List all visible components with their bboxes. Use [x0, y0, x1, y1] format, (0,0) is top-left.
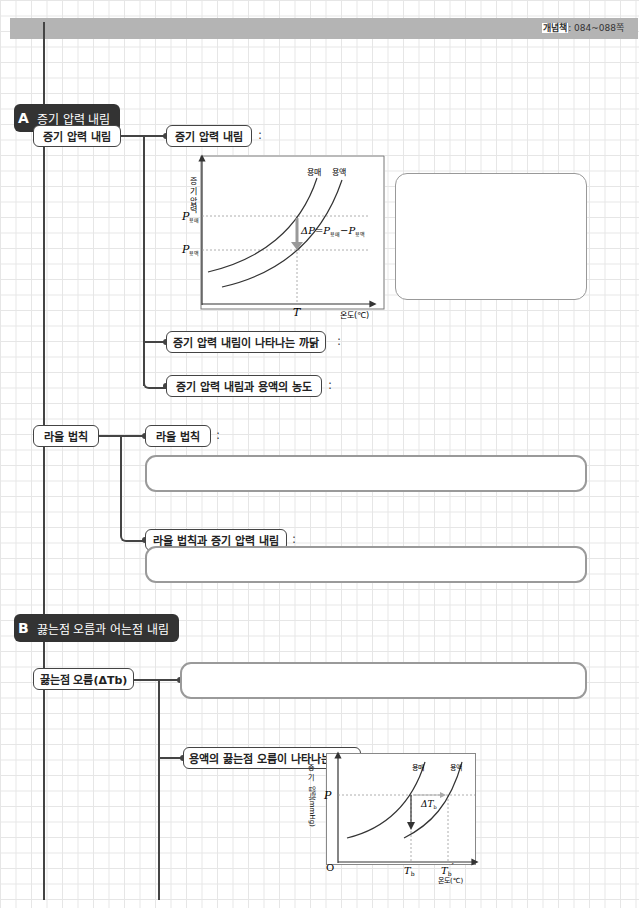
colon: :	[258, 128, 262, 142]
section-b-header: B 끓는점 오름과 어는점 내림	[14, 614, 179, 642]
x-axis-label: 온도(℃)	[438, 877, 464, 885]
y-axis-char: 기	[190, 187, 197, 196]
y-axis-char: 기	[308, 773, 314, 782]
node-boiling-point-elevation[interactable]: 끓는점 오름(ΔTb)	[33, 668, 134, 690]
section-a-letter: A	[18, 110, 29, 126]
colon: :	[216, 428, 220, 442]
tb-tick-label: Tb	[404, 865, 415, 877]
subnode-vapor-pressure-reason[interactable]: 증기 압력 내림이 나타나는 까닭	[166, 331, 326, 353]
main-spine-line	[43, 22, 45, 900]
x-axis-label: 온도(℃)	[340, 311, 369, 320]
connector	[158, 757, 182, 759]
curve-label-solution: 용액	[450, 764, 462, 772]
node-label: 라울 법칙	[44, 428, 88, 444]
node-label: 증기 압력 내림	[43, 128, 111, 144]
delta-p-formula: ΔP=P용매−P용액	[300, 225, 365, 238]
boiling-point-chart-plot: 증 기 압력(mmHg) P O Tb Tb′ 온도(℃) 용매 용액 ΔTb	[280, 750, 490, 908]
colon: :	[292, 532, 296, 546]
y-axis-char: 증	[190, 177, 197, 186]
top-bar: 개념책: 084~088쪽	[10, 18, 638, 39]
branch-line	[143, 135, 145, 386]
subnode-label: 증기 압력 내림과 용액의 농도	[176, 378, 311, 394]
section-a-title: 증기 압력 내림	[37, 110, 111, 127]
connector	[143, 341, 165, 343]
colon: :	[328, 378, 332, 392]
section-b-title: 끓는점 오름과 어는점 내림	[37, 620, 169, 637]
subnode-vapor-pressure-concentration[interactable]: 증기 압력 내림과 용액의 농도	[166, 375, 322, 397]
answer-box-boiling-point-elevation[interactable]	[180, 662, 587, 699]
curve-label-solution: 용액	[332, 167, 346, 177]
node-label: 끓는점 오름(ΔTb)	[40, 671, 128, 687]
tb-prime-tick-label: Tb′	[441, 861, 455, 877]
subnode-raoult-law[interactable]: 라울 법칙	[145, 425, 211, 447]
node-raoult-law[interactable]: 라울 법칙	[33, 425, 99, 447]
delta-tb-label: ΔTb	[420, 799, 437, 810]
reference-page-range: : 084~088쪽	[568, 23, 624, 33]
colon: :	[337, 334, 341, 348]
curve-label-solvent: 용매	[412, 764, 424, 772]
origin-label: O	[326, 862, 334, 873]
branch-line	[158, 679, 160, 900]
y-axis-char: 증	[308, 764, 315, 772]
curve-label-solvent: 용매	[307, 168, 321, 177]
section-b-letter: B	[18, 620, 29, 636]
subnode-label: 증기 압력 내림	[175, 128, 243, 144]
subnode-vapor-pressure-lowering[interactable]: 증기 압력 내림	[166, 125, 252, 147]
subnode-label: 라울 법칙	[156, 428, 200, 444]
answer-box-raoult-law[interactable]	[145, 455, 587, 492]
connector	[134, 679, 180, 681]
vapor-pressure-chart-plot: 증 기 압 력 P용매 P용액 T 온도(℃) 용매 용액 ΔP=P용매−P용액	[180, 150, 395, 320]
y-axis-label: 압력(mmHg)	[308, 786, 316, 827]
answer-box-vapor-pressure[interactable]	[395, 173, 587, 300]
p-tick-label: P	[323, 789, 332, 802]
node-vapor-pressure-lowering[interactable]: 증기 압력 내림	[33, 125, 121, 147]
y-axis-char: 력	[190, 204, 197, 214]
branch-corner	[120, 435, 146, 542]
reference-pages: 개념책: 084~088쪽	[542, 21, 624, 34]
answer-box-raoult-vapor-pressure[interactable]	[145, 546, 587, 583]
t-tick-label: T	[293, 306, 302, 319]
reference-label: 개념책	[542, 23, 568, 33]
p-solution-label: P용액	[181, 243, 199, 257]
subnode-label: 증기 압력 내림이 나타나는 까닭	[173, 334, 318, 350]
